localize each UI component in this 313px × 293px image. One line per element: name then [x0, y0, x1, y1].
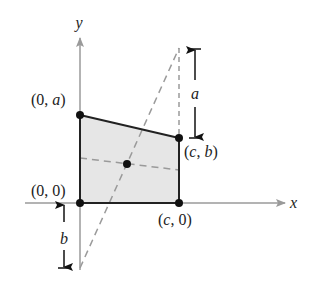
trapezoid-diagram: a b y x (0, a) (c, b) (0, 0) (c, 0): [0, 0, 313, 293]
dimension-b-label: b: [60, 230, 68, 247]
point-0-a: [76, 111, 84, 119]
point-c-b: [175, 134, 183, 142]
label-point-c-0: (c, 0): [158, 211, 192, 229]
point-c-0: [175, 199, 183, 207]
label-point-c-b: (c, b): [184, 143, 218, 161]
point-midpoint: [123, 160, 131, 168]
trapezoid-region: [80, 115, 179, 203]
y-axis-label: y: [73, 14, 83, 32]
label-point-origin: (0, 0): [31, 182, 66, 200]
x-axis-label: x: [289, 194, 297, 211]
dimension-a-label: a: [191, 85, 199, 102]
label-point-0-a: (0, a): [31, 91, 66, 109]
point-origin: [76, 199, 84, 207]
